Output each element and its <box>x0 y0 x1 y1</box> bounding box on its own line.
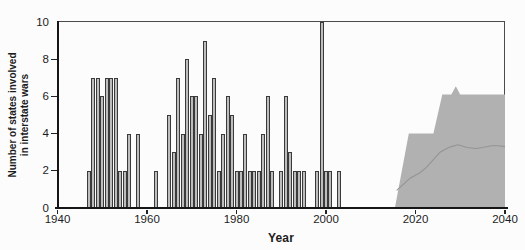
bar-1978 <box>226 96 230 208</box>
bar-1983 <box>248 171 252 208</box>
x-tick-label-2000: 2000 <box>306 213 346 226</box>
y-tick-4 <box>51 133 57 134</box>
bar-1955 <box>123 171 127 208</box>
bar-1998 <box>315 171 319 208</box>
bar-1987 <box>266 96 270 208</box>
y-tick-label-2: 2 <box>9 164 49 177</box>
bar-1950 <box>100 96 104 208</box>
bar-1968 <box>181 134 185 208</box>
bar-2001 <box>328 171 332 208</box>
bar-1976 <box>217 171 221 208</box>
bar-1995 <box>302 171 306 208</box>
x-axis-line <box>55 207 508 209</box>
bar-1992 <box>288 152 292 208</box>
bar-2003 <box>337 171 341 208</box>
bar-1966 <box>172 152 176 208</box>
x-tick-label-1940: 1940 <box>38 213 78 226</box>
y-tick-8 <box>51 59 57 60</box>
bar-1956 <box>127 134 131 208</box>
y-tick-label-4: 4 <box>9 127 49 140</box>
bar-1990 <box>279 171 283 208</box>
bar-1991 <box>284 96 288 208</box>
bar-1993 <box>293 171 297 208</box>
bar-1952 <box>109 78 113 208</box>
bar-1994 <box>297 171 301 208</box>
interstate-wars-chart: Number of states involved in interstate … <box>0 0 525 250</box>
bar-1971 <box>194 96 198 208</box>
bar-1969 <box>185 59 189 208</box>
bar-1973 <box>203 41 207 208</box>
x-tick-label-2040: 2040 <box>485 213 525 226</box>
bar-1986 <box>261 134 265 208</box>
bar-1979 <box>230 115 234 208</box>
y-tick-label-6: 6 <box>9 90 49 103</box>
y-tick-label-8: 8 <box>9 53 49 66</box>
bar-1954 <box>118 171 122 208</box>
x-tick-label-1980: 1980 <box>217 213 257 226</box>
bar-1953 <box>114 78 118 208</box>
bar-1951 <box>105 78 109 208</box>
bar-1949 <box>96 78 100 208</box>
y-axis-title: Number of states involved in interstate … <box>6 21 29 208</box>
y-axis-title-line1: Number of states involved <box>6 21 18 208</box>
x-axis-title: Year <box>57 231 505 245</box>
bar-1981 <box>239 171 243 208</box>
x-tick-label-1960: 1960 <box>127 213 167 226</box>
bar-1999 <box>320 22 324 208</box>
bar-1984 <box>252 171 256 208</box>
x-tick-label-2020: 2020 <box>396 213 436 226</box>
bar-1965 <box>167 115 171 208</box>
bar-1962 <box>154 171 158 208</box>
y-axis-title-box: Number of states involved in interstate … <box>1 21 34 208</box>
y-tick-label-10: 10 <box>9 16 49 29</box>
bar-1967 <box>176 78 180 208</box>
bar-1947 <box>87 171 91 208</box>
bar-1980 <box>235 171 239 208</box>
y-axis-line <box>57 21 59 209</box>
bar-1982 <box>243 134 247 208</box>
bar-2000 <box>324 171 328 208</box>
bar-1948 <box>91 78 95 208</box>
bar-1985 <box>257 171 261 208</box>
bar-1958 <box>136 134 140 208</box>
bar-1977 <box>221 134 225 208</box>
plot-area: 194019601980200020202040 0246810 Year <box>57 21 505 208</box>
bar-1988 <box>270 171 274 208</box>
bar-1974 <box>208 115 212 208</box>
y-tick-2 <box>51 170 57 171</box>
y-axis-title-line2: in interstate wars <box>18 21 30 208</box>
bar-1972 <box>199 134 203 208</box>
bar-1970 <box>190 96 194 208</box>
y-tick-label-0: 0 <box>9 202 49 215</box>
y-tick-6 <box>51 96 57 97</box>
bar-1975 <box>212 78 216 208</box>
